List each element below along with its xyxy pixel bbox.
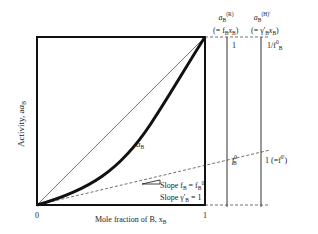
slope-f-label: Slope fB = fB0	[160, 180, 204, 191]
x-axis-label: Mole fraction of B, xB	[95, 215, 167, 225]
slope-gamma-label: Slope γ'B = 1	[160, 193, 201, 203]
scale-h-subheader: (= γ'BxB)	[251, 26, 279, 36]
curve-label: aB	[136, 139, 145, 150]
scale-r-subheader: (= fBxB)	[213, 26, 239, 36]
scale-h-header: aB(H)'	[254, 11, 270, 23]
activity-diagram: Activity, aaB 0 1 Mole fraction of B, xB…	[0, 0, 318, 234]
y-axis-label: Activity, aaB	[16, 101, 27, 147]
scale-h-mid-value: 1 (=f0')	[265, 154, 288, 165]
slope-triangle	[142, 180, 160, 184]
x-tick-1: 1	[203, 211, 207, 220]
scale-r-header: aB(R)	[218, 11, 233, 23]
scale-h-top-value: 1/f0B	[267, 39, 283, 51]
x-tick-0: 0	[35, 211, 39, 220]
scale-r-mid-value: f0B	[232, 154, 237, 166]
scale-r-top-value: 1	[232, 41, 236, 50]
raoult-line	[37, 37, 205, 205]
